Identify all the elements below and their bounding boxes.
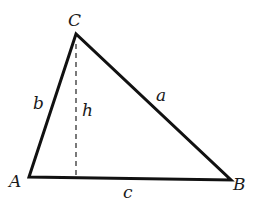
triangle-diagram: C A B a b c h [0,0,264,210]
side-label-c: c [123,182,133,202]
side-label-a: a [156,85,166,105]
vertex-label-c: C [68,10,81,30]
side-label-b: b [33,93,44,113]
vertex-label-a: A [7,171,21,191]
vertex-label-b: B [232,174,246,194]
altitude-label-h: h [82,100,93,120]
triangle-abc [29,34,231,180]
